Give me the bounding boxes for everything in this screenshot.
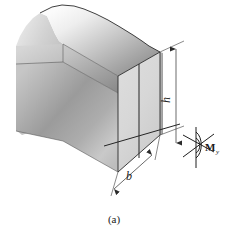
beam-solid-body: [16, 5, 163, 172]
moment-label: My: [205, 141, 220, 156]
width-extension-line-left: [111, 172, 118, 196]
moment-vector-group: My: [183, 127, 220, 168]
moment-label-main: M: [205, 141, 216, 153]
width-dimension-label: b: [126, 169, 132, 183]
moment-label-subscript: y: [215, 148, 220, 156]
height-dimension-label: h: [159, 97, 173, 103]
beam-cross-section-figure: h b My (a): [0, 0, 228, 235]
height-extension-line-top: [160, 41, 184, 52]
height-extension-line-bottom: [160, 126, 184, 135]
figure-container: h b My (a): [0, 0, 228, 235]
figure-caption: (a): [108, 213, 121, 226]
